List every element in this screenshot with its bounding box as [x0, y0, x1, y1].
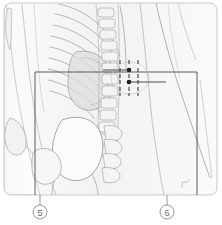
anatomy-body: [0, 0, 222, 225]
figure-container: 5 6: [0, 0, 222, 225]
callout-5-label: 5: [37, 208, 42, 218]
anatomy-figure-svg: 5 6: [0, 0, 222, 225]
callout-6[interactable]: 6: [160, 195, 174, 219]
callout-6-label: 6: [164, 208, 169, 218]
callout-5[interactable]: 5: [33, 195, 47, 219]
